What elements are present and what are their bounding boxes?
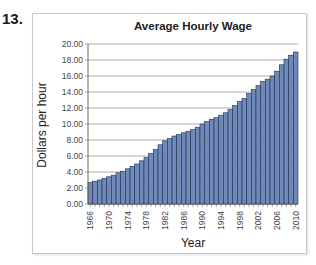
bar (102, 178, 107, 204)
x-tick-label: 2006 (272, 211, 282, 230)
bar (111, 175, 116, 204)
x-tick-label: 1990 (197, 211, 207, 230)
bar (293, 52, 298, 204)
bar (107, 177, 112, 204)
y-tick-label: 14.00 (62, 87, 84, 97)
bar (237, 102, 242, 204)
bar (116, 173, 121, 204)
bar (125, 169, 130, 204)
bar (261, 82, 266, 204)
bar (195, 127, 200, 204)
bar (144, 158, 149, 204)
bar (177, 134, 182, 204)
x-tick-label: 2010 (291, 211, 301, 230)
x-tick-label: 1986 (179, 211, 189, 230)
bar (228, 110, 233, 204)
bar-chart-plot: 0.002.004.006.008.0010.0012.0014.0016.00… (0, 0, 316, 265)
bar (191, 130, 196, 204)
bar (251, 90, 256, 204)
x-tick-label: 1966 (85, 211, 95, 230)
bar (284, 59, 289, 204)
bar (265, 79, 270, 204)
bar (172, 136, 177, 204)
bar (219, 115, 224, 204)
y-tick-label: 8.00 (66, 135, 83, 145)
bar (242, 98, 247, 204)
y-tick-label: 2.00 (66, 183, 83, 193)
bar (214, 118, 219, 204)
bar (149, 154, 154, 204)
y-tick-label: 6.00 (66, 151, 83, 161)
bar (93, 181, 98, 204)
y-tick-label: 0.00 (66, 199, 83, 209)
y-tick-label: 10.00 (62, 119, 84, 129)
x-tick-label: 1998 (235, 211, 245, 230)
x-tick-label: 1970 (104, 211, 114, 230)
bar (97, 180, 102, 204)
x-tick-label: 1978 (141, 211, 151, 230)
bar (205, 122, 210, 204)
bar (200, 124, 205, 204)
bar (270, 76, 275, 204)
bar (88, 182, 93, 204)
y-tick-label: 20.00 (62, 39, 84, 49)
bar (121, 171, 126, 204)
bar (163, 141, 168, 204)
bar (247, 94, 252, 204)
bar (130, 166, 135, 204)
bar (223, 113, 228, 204)
bar (139, 161, 144, 204)
bar (186, 131, 191, 204)
x-tick-label: 1982 (160, 211, 170, 230)
bar (275, 71, 280, 204)
bar (279, 65, 284, 204)
bar (181, 133, 186, 204)
x-tick-label: 1974 (123, 211, 133, 230)
y-tick-label: 12.00 (62, 103, 84, 113)
bar (256, 86, 261, 204)
bar (289, 55, 294, 204)
y-tick-label: 4.00 (66, 167, 83, 177)
bar (233, 106, 238, 204)
bar (153, 150, 158, 204)
y-tick-label: 16.00 (62, 71, 84, 81)
x-tick-label: 2002 (253, 211, 263, 230)
x-tick-label: 1994 (216, 211, 226, 230)
y-tick-label: 18.00 (62, 55, 84, 65)
bar (167, 138, 172, 204)
bar (135, 164, 140, 204)
bar (209, 119, 214, 204)
bar (158, 145, 163, 204)
